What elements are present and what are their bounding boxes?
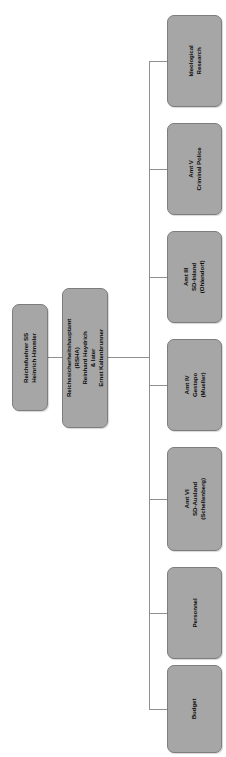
node-label: IdeologicalResearch — [187, 45, 203, 76]
org-chart: Reichsfuehrer SS Heinrich Himmler Reichs… — [0, 0, 226, 757]
node-line-1: Reichsfuehrer SS — [22, 333, 29, 383]
node-label: Amt IIISD-Inland(Ohlendorf) — [183, 261, 207, 294]
node-line-2: SD-Ausland — [191, 482, 198, 516]
connector-root-to-rsha — [48, 357, 62, 358]
node-label: Amt VISD-Ausland(Schellenberg) — [183, 478, 207, 520]
node-label: Budget — [191, 699, 199, 720]
node-line-1: Amt V — [187, 160, 194, 177]
node-reichsfuehrer-ss[interactable]: Reichsfuehrer SS Heinrich Himmler — [12, 304, 48, 411]
node-line-2: Gestapo — [191, 373, 198, 397]
node-line-2: (RSHA) — [73, 347, 80, 368]
node-label: Reichsfuehrer SS Heinrich Himmler — [22, 333, 38, 383]
node-line-1: Amt III — [183, 268, 190, 286]
connector-stub-amt-v-criminal-police — [149, 169, 167, 170]
node-line-1: Ideological — [187, 45, 194, 76]
node-line-2: Heinrich Himmler — [30, 333, 37, 383]
node-label: Reichssicherheitshauptamt (RSHA) Reinhar… — [65, 319, 105, 397]
connector-stub-amt-vi-sd-ausland — [149, 499, 167, 500]
connector-stub-ideological-research — [149, 61, 167, 62]
node-line-2: Criminal Police — [194, 147, 201, 190]
node-rsha[interactable]: Reichssicherheitshauptamt (RSHA) Reinhar… — [62, 288, 108, 428]
connector-stub-personnel — [149, 613, 167, 614]
node-budget[interactable]: Budget — [167, 665, 222, 753]
node-label: Amt VCriminal Police — [187, 147, 203, 190]
node-line-5: Ernst Kaltenbrunner — [97, 329, 104, 387]
node-amt-iii-sd-inland[interactable]: Amt IIISD-Inland(Ohlendorf) — [167, 231, 222, 323]
node-line-1: Budget — [191, 699, 198, 720]
node-line-3: (Schellenberg) — [198, 478, 205, 520]
node-personnel[interactable]: Personnel — [167, 567, 222, 659]
node-line-1: Personnel — [191, 598, 198, 627]
connector-stub-amt-iv-gestapo — [149, 385, 167, 386]
node-line-2: SD-Inland — [191, 263, 198, 291]
connector-stub-budget — [149, 709, 167, 710]
node-label: Personnel — [191, 598, 199, 627]
node-amt-v-criminal-police[interactable]: Amt VCriminal Police — [167, 123, 222, 215]
node-line-1: Amt IV — [183, 376, 190, 395]
node-ideological-research[interactable]: IdeologicalResearch — [167, 15, 222, 107]
node-line-3: (Mueller) — [198, 373, 205, 398]
node-line-4: & later — [89, 349, 96, 368]
node-label: Amt IVGestapo(Mueller) — [183, 373, 207, 398]
node-line-1: Reichssicherheitshauptamt — [65, 319, 72, 397]
node-amt-vi-sd-ausland[interactable]: Amt VISD-Ausland(Schellenberg) — [167, 447, 222, 551]
node-line-3: Reinhard Heydrich — [81, 331, 88, 384]
node-line-3: (Ohlendorf) — [198, 261, 205, 294]
connector-stub-amt-iii-sd-inland — [149, 277, 167, 278]
connector-rsha-to-trunk — [108, 357, 150, 358]
node-amt-iv-gestapo[interactable]: Amt IVGestapo(Mueller) — [167, 339, 222, 431]
node-line-2: Research — [195, 47, 202, 74]
node-line-1: Amt VI — [183, 490, 190, 509]
